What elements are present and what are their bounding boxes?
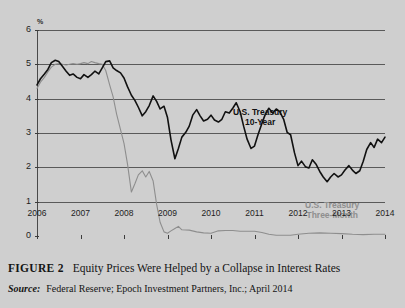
x-tick-2014	[385, 235, 386, 239]
figure-container: % U.S. Treasury 10-Year U.S. Treasury Th…	[0, 0, 405, 308]
x-tick-label-2013: 2013	[325, 209, 359, 218]
y-tick-label-3: 3	[7, 128, 31, 137]
annotation-ten-year: U.S. Treasury 10-Year	[233, 107, 287, 127]
y-tick-label-6: 6	[7, 25, 31, 34]
y-tick-label-2: 2	[7, 162, 31, 171]
x-tick-label-2012: 2012	[281, 209, 315, 218]
y-tick-label-1: 1	[7, 197, 31, 206]
annotation-ten-year-line2: 10-Year	[245, 117, 275, 127]
x-tick-label-2009: 2009	[151, 209, 185, 218]
figure-source: Source:Federal Reserve; Epoch Investment…	[8, 283, 400, 295]
annotation-ten-year-line1: U.S. Treasury	[233, 107, 287, 117]
source-label: Source:	[8, 283, 40, 294]
y-axis-unit-label: %	[37, 18, 43, 25]
y-tick-label-5: 5	[7, 59, 31, 68]
source-text: Federal Reserve; Epoch Investment Partne…	[46, 283, 292, 294]
figure-caption: FIGURE 2Equity Prices Were Helped by a C…	[8, 262, 400, 275]
x-tick-label-2010: 2010	[194, 209, 228, 218]
series-line-ten-year	[37, 60, 385, 182]
y-tick-label-4: 4	[7, 94, 31, 103]
x-tick-label-2006: 2006	[20, 209, 54, 218]
y-tick-label-0: 0	[7, 231, 31, 240]
figure-caption-text: Equity Prices Were Helped by a Collapse …	[73, 262, 340, 274]
x-tick-label-2014: 2014	[368, 209, 402, 218]
x-tick-label-2011: 2011	[238, 209, 272, 218]
plot-area: U.S. Treasury 10-Year U.S. Treasury Thre…	[37, 30, 385, 236]
x-tick-label-2008: 2008	[107, 209, 141, 218]
figure-number: FIGURE 2	[8, 262, 64, 274]
x-tick-label-2007: 2007	[64, 209, 98, 218]
